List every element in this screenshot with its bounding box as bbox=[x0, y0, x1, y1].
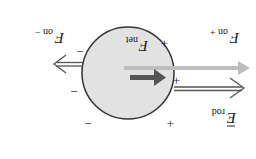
plus-charge: + bbox=[173, 73, 180, 88]
minus-charge: − bbox=[71, 84, 78, 99]
svg-text:rod: rod bbox=[212, 107, 225, 118]
svg-text:on −: on − bbox=[35, 27, 54, 38]
label-f-on-minus: F on − bbox=[35, 27, 66, 46]
plus-charge: + bbox=[161, 36, 168, 51]
minus-charge: − bbox=[77, 44, 84, 59]
diagram-canvas: + + + − − − E rod F net F on + F on − bbox=[0, 0, 256, 159]
svg-text:net: net bbox=[126, 35, 138, 46]
svg-text:F: F bbox=[54, 30, 65, 46]
svg-text:F: F bbox=[229, 30, 240, 46]
svg-text:E: E bbox=[227, 110, 237, 126]
svg-text:F: F bbox=[138, 38, 149, 54]
svg-text:on +: on + bbox=[210, 27, 229, 38]
label-f-on-plus: F on + bbox=[210, 27, 241, 46]
plus-charge: + bbox=[167, 116, 174, 131]
minus-charge: − bbox=[85, 116, 92, 131]
label-e-rod: E rod bbox=[212, 107, 237, 126]
f-on-plus-arrow bbox=[174, 78, 244, 98]
